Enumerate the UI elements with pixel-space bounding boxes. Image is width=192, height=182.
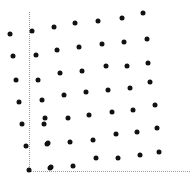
data-point	[135, 130, 140, 135]
data-point	[58, 71, 63, 76]
data-point	[96, 19, 101, 24]
data-point	[71, 164, 76, 169]
data-point	[106, 88, 111, 93]
data-point	[62, 93, 67, 98]
data-point	[100, 42, 105, 47]
data-point	[24, 144, 29, 149]
data-point	[155, 126, 160, 131]
data-point	[120, 16, 125, 21]
data-point	[73, 21, 78, 26]
data-point	[20, 122, 25, 127]
data-point	[138, 153, 143, 158]
data-point	[91, 138, 96, 143]
data-point	[145, 37, 150, 42]
data-point	[84, 90, 89, 95]
data-point	[125, 64, 130, 69]
y-axis	[29, 12, 30, 171]
data-point	[122, 40, 127, 45]
data-point	[148, 80, 153, 85]
data-point	[14, 78, 19, 83]
data-point	[36, 78, 41, 83]
data-point	[8, 32, 13, 37]
data-point	[116, 156, 121, 161]
data-point	[128, 86, 133, 91]
data-point	[131, 108, 136, 113]
data-point	[34, 53, 39, 58]
data-point	[77, 45, 82, 50]
x-axis	[29, 171, 190, 172]
data-point	[94, 156, 99, 161]
data-point	[104, 64, 109, 69]
data-point	[40, 98, 45, 103]
data-point	[43, 116, 48, 121]
data-point	[80, 69, 85, 74]
data-point	[46, 141, 51, 146]
data-point	[68, 140, 73, 145]
data-point	[157, 150, 162, 155]
data-point	[42, 122, 47, 127]
data-point	[114, 132, 119, 137]
scatter-plot-figure	[0, 0, 192, 182]
data-point	[52, 25, 57, 30]
data-point	[49, 165, 54, 170]
data-point	[87, 113, 92, 118]
data-point	[30, 29, 35, 34]
data-point	[17, 100, 22, 105]
data-point	[66, 116, 71, 121]
data-point	[11, 54, 16, 59]
data-point	[141, 11, 146, 16]
data-point	[55, 48, 60, 53]
data-point	[153, 103, 158, 108]
data-point	[27, 168, 32, 173]
data-point	[146, 61, 151, 66]
data-point	[110, 110, 115, 115]
